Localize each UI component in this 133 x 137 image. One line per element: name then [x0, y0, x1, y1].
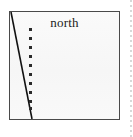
plot-frame: north [9, 11, 120, 120]
marker-dot [29, 46, 32, 49]
boundary-line [10, 12, 119, 119]
marker-dot [29, 82, 32, 85]
marker-column [29, 28, 33, 108]
marker-dot [29, 100, 32, 103]
crop-edge-artifact [130, 0, 132, 137]
marker-dot [29, 64, 32, 67]
marker-dot [29, 28, 32, 31]
marker-dot [29, 73, 32, 76]
marker-dot [29, 37, 32, 40]
figure-root: north [0, 0, 133, 137]
marker-dot [29, 91, 32, 94]
marker-dot [29, 55, 32, 58]
marker-dot [29, 107, 32, 110]
